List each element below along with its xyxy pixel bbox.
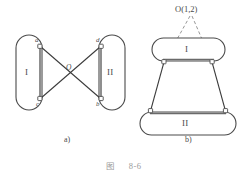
joint-b-label: b bbox=[96, 101, 100, 108]
joint-c-label: c bbox=[36, 101, 39, 108]
joint-bottom-left-marker bbox=[148, 109, 152, 113]
link-I-body-b bbox=[152, 38, 225, 61]
instant-center-label-b: O(1,2) bbox=[175, 5, 197, 14]
joint-d-marker bbox=[99, 44, 103, 48]
rod-right-b bbox=[212, 62, 226, 111]
caption-prefix: 图 bbox=[106, 161, 116, 171]
link-II-label-a: II bbox=[107, 68, 113, 77]
sublabel-b: b) bbox=[185, 136, 192, 144]
joint-a-marker bbox=[38, 44, 42, 48]
figure-8-6: I II a c d b O a) O(1,2) I II b) 图 8-6 bbox=[0, 0, 247, 185]
rod-left-b bbox=[151, 62, 165, 111]
figure-drawing bbox=[0, 0, 247, 185]
joint-top-right-marker bbox=[210, 60, 214, 64]
joint-bottom-right-marker bbox=[223, 109, 227, 113]
link-II-label-b: II bbox=[182, 119, 188, 128]
caption-number: 8-6 bbox=[129, 161, 142, 171]
instant-center-label-a: O bbox=[66, 64, 71, 72]
joint-top-left-marker bbox=[162, 60, 166, 64]
sublabel-a: a) bbox=[64, 136, 70, 144]
joint-a-label: a bbox=[35, 37, 39, 44]
link-I-label-a: I bbox=[25, 68, 28, 77]
link-I-label-b: I bbox=[185, 45, 188, 54]
figure-caption: 图 8-6 bbox=[0, 159, 247, 171]
joint-d-label: d bbox=[96, 37, 100, 44]
diagram-b-group bbox=[140, 16, 236, 135]
